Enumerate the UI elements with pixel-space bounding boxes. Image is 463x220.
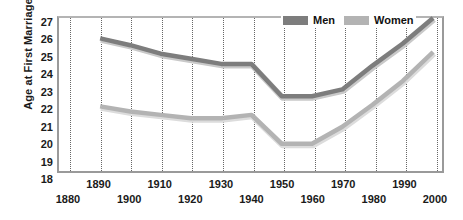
x-axis-tick-label-group: 1880189019001910192019301940195019601970… [0, 176, 463, 216]
y-axis-tick-label: 24 [20, 68, 53, 80]
y-axis-tick-label: 22 [20, 103, 53, 115]
x-axis-tick-label: 1960 [290, 193, 336, 205]
y-axis-tick-label: 23 [20, 86, 53, 98]
x-axis-tick-label: 1900 [106, 193, 152, 205]
x-axis-tick-label: 1980 [351, 193, 397, 205]
legend-label-men: Men [313, 14, 335, 26]
legend-entry-men[interactable]: Men [283, 14, 335, 26]
legend-label-women: Women [374, 14, 414, 26]
x-axis-tick-label: 1930 [198, 178, 244, 190]
legend-entry-women[interactable]: Women [344, 14, 414, 26]
age-at-first-marriage-line-chart: Age at First Marriage 272625242322212019… [0, 0, 463, 220]
x-axis-tick-label: 1940 [229, 193, 275, 205]
x-axis-tick-label: 1910 [137, 178, 183, 190]
y-axis-tick-label-group: 27262524232221201918 [20, 10, 53, 178]
y-axis-tick-label: 19 [20, 156, 53, 168]
x-axis-tick-label: 1890 [76, 178, 122, 190]
legend-swatch-women [344, 16, 369, 25]
x-axis-tick-label: 1920 [167, 193, 213, 205]
y-axis-tick-label: 26 [20, 33, 53, 45]
y-axis-tick-label: 25 [20, 51, 53, 63]
x-axis-tick-label: 1880 [45, 193, 91, 205]
x-axis-tick-label: 1950 [259, 178, 305, 190]
series-line-women[interactable] [100, 52, 433, 144]
x-axis-tick-label: 1970 [320, 178, 366, 190]
y-axis-tick-label: 20 [20, 138, 53, 150]
legend: Men Women [281, 13, 416, 27]
y-axis-tick-label: 21 [20, 121, 53, 133]
series-group [59, 18, 442, 171]
legend-swatch-men [283, 16, 308, 25]
y-axis-tick-label: 27 [20, 16, 53, 28]
x-axis-tick-label: 1990 [381, 178, 427, 190]
plot-area [57, 16, 444, 173]
x-axis-tick-label: 2000 [412, 193, 458, 205]
